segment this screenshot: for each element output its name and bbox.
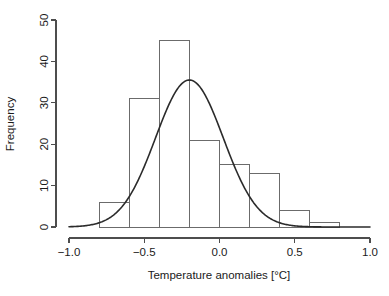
y-axis-tick-label: 30 [38, 96, 50, 109]
x-axis-title: Temperature anomalies [°C] [148, 269, 291, 281]
x-axis-tick-label: 1.0 [362, 246, 378, 258]
x-axis-tick-label: 0.0 [212, 246, 228, 258]
x-axis-tick-label: 0.5 [287, 246, 303, 258]
y-axis-tick-label: 50 [38, 14, 50, 27]
chart-canvas: 01020304050 −1.0−0.50.00.51.0 Frequency … [0, 0, 389, 296]
histogram-figure: 01020304050 −1.0−0.50.00.51.0 Frequency … [0, 0, 389, 296]
x-axis-tick-label: −1.0 [58, 246, 81, 258]
y-axis-tick-label: 40 [38, 55, 50, 68]
y-axis-tick-label: 20 [38, 138, 50, 151]
y-axis-tick-label: 0 [38, 224, 50, 230]
y-axis-tick-label: 10 [38, 179, 50, 192]
y-axis-title: Frequency [4, 97, 16, 152]
x-axis-tick-label: −0.5 [133, 246, 156, 258]
